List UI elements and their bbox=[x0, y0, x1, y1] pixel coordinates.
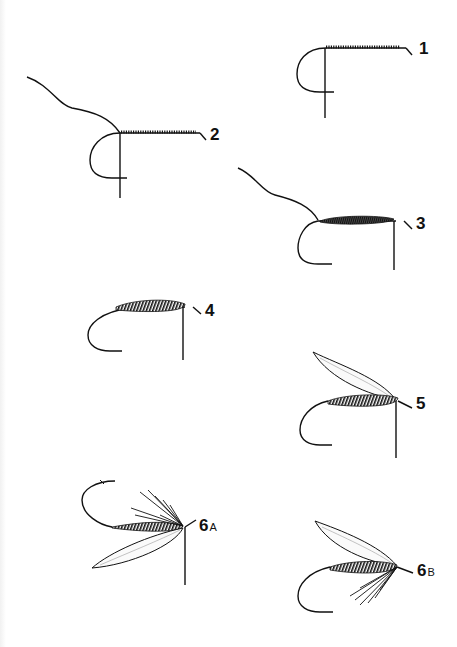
step-label-5: 5 bbox=[416, 395, 425, 412]
step-label-3: 3 bbox=[416, 215, 425, 232]
step-3-hook bbox=[238, 168, 412, 270]
step-6a-fly bbox=[82, 480, 196, 585]
step-1-hook bbox=[297, 47, 412, 118]
step-label-2: 2 bbox=[210, 126, 219, 143]
step-label-4: 4 bbox=[205, 302, 214, 319]
step-4-hook bbox=[88, 300, 201, 360]
step-6b-fly bbox=[298, 521, 413, 612]
hackle-fibers bbox=[131, 490, 183, 526]
step-label-6b: 6B bbox=[417, 562, 435, 579]
step-label-6a: 6A bbox=[199, 517, 217, 534]
step-2-hook bbox=[27, 77, 206, 198]
step-5-fly bbox=[300, 352, 412, 458]
step-label-1: 1 bbox=[419, 40, 428, 57]
fly-tying-diagram bbox=[0, 0, 457, 647]
